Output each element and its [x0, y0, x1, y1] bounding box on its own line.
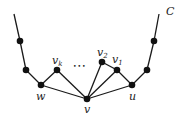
edge-c_top_left-left_1	[14, 14, 20, 41]
node-v	[84, 96, 91, 103]
label-v1-sub: 1	[118, 59, 122, 67]
node-v1	[114, 67, 121, 74]
node-u	[129, 82, 136, 89]
label-v2: v2	[97, 46, 108, 60]
node-left_1	[17, 38, 24, 45]
graph-diagram: C w v u vk v2 v1 •••	[0, 0, 182, 116]
label-c: C	[166, 5, 175, 18]
edge-left_1-left_2	[20, 41, 26, 70]
node-left_2	[23, 67, 30, 74]
label-v1: v1	[112, 53, 123, 67]
label-vk-sub: k	[58, 60, 62, 68]
label-v2-sub: 2	[102, 52, 108, 60]
node-w	[38, 82, 45, 89]
ellipsis: •••	[73, 62, 87, 69]
label-vk: vk	[52, 54, 62, 68]
edge-v-v2	[87, 62, 102, 99]
edge-right_1-c_top_right	[154, 14, 159, 41]
label-u: u	[129, 90, 136, 103]
node-right_1	[151, 38, 158, 45]
label-w: w	[36, 90, 46, 103]
node-right_2	[144, 67, 151, 74]
edges	[14, 14, 159, 99]
label-v: v	[84, 103, 91, 116]
edge-right_2-right_1	[147, 41, 154, 70]
